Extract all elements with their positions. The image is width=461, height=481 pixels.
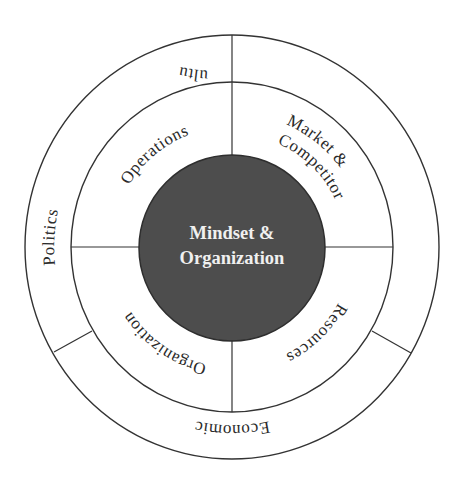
outer-label-economic: Economic — [193, 417, 272, 440]
ring-diagram: Mindset & Organization Politics Culture … — [0, 0, 461, 481]
politics-label: Politics — [39, 207, 62, 267]
outer-divider-lower-left — [54, 331, 92, 352]
outer-divider-lower-right — [372, 331, 411, 353]
core-label-line1: Mindset & — [190, 223, 275, 243]
core-label-line2: Organization — [180, 248, 286, 268]
outer-label-politics: Politics — [39, 207, 62, 267]
economic-label: Economic — [193, 417, 272, 440]
